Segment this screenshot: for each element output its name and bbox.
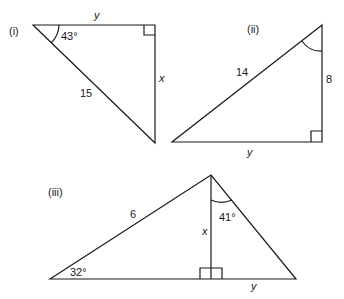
- side-y-ii: y: [246, 146, 254, 158]
- diagram-canvas: (i) y 43° x 15 (ii) 14 8 y (iii) 6 41° x…: [0, 0, 344, 299]
- altitude-x-label: x: [201, 225, 208, 237]
- right-angle-marker-ii: [311, 131, 322, 142]
- side-x-i: x: [158, 72, 165, 84]
- angle-arc-ii: [302, 41, 322, 51]
- side-14-label: 14: [236, 66, 248, 78]
- triangle-ii: (ii) 14 8 y: [172, 23, 332, 158]
- side-y-i: y: [93, 9, 101, 21]
- triangle-iii-label: (iii): [48, 186, 63, 198]
- triangle-iii: (iii) 6 41° x 32° y: [48, 175, 296, 292]
- angle-43-label: 43°: [61, 30, 78, 42]
- triangle-ii-label: (ii): [247, 23, 259, 35]
- triangle-ii-shape: [172, 25, 322, 142]
- angle-32-label: 32°: [70, 266, 87, 278]
- triangle-i: (i) y 43° x 15: [9, 9, 165, 143]
- side-y-iii: y: [250, 280, 258, 292]
- side-6-label: 6: [130, 208, 136, 220]
- triangle-iii-shape: [50, 175, 296, 279]
- right-angle-marker-i: [144, 25, 155, 35]
- angle-arc-iii-apex: [211, 200, 232, 202]
- angle-41-label: 41°: [219, 211, 236, 223]
- angle-arc-i: [51, 25, 59, 43]
- side-15-label: 15: [80, 87, 92, 99]
- triangle-i-label: (i): [9, 25, 19, 37]
- side-8-label: 8: [326, 73, 332, 85]
